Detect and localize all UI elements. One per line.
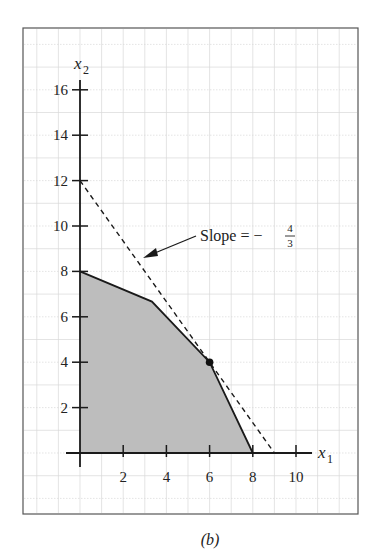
slope-annotation: Slope = − 4 3: [143, 222, 295, 258]
x-tick-label: 4: [163, 469, 171, 485]
slope-fraction-denominator: 3: [287, 237, 293, 249]
y-axis-label: x 2: [73, 54, 89, 77]
y-tick-label: 8: [61, 263, 69, 279]
x-tick-label: 2: [119, 469, 127, 485]
y-tick-label: 16: [53, 82, 69, 98]
slope-fraction-numerator: 4: [287, 222, 293, 234]
x-tick-label: 8: [249, 469, 257, 485]
lp-chart: Slope = − 4 3 x 1 x 2 246810246810121416…: [0, 0, 381, 554]
svg-text:1: 1: [327, 452, 333, 466]
x-tick-label: 6: [206, 469, 214, 485]
svg-text:x: x: [317, 443, 326, 462]
y-tick-label: 4: [61, 354, 69, 370]
y-tick-label: 2: [61, 400, 69, 416]
slope-label: Slope = −: [200, 227, 263, 245]
x-tick-label: 10: [289, 469, 304, 485]
svg-text:2: 2: [83, 63, 89, 77]
optimal-point: [206, 358, 214, 366]
y-tick-label: 10: [53, 218, 68, 234]
y-tick-label: 12: [53, 173, 68, 189]
x-axis-label: x 1: [317, 443, 333, 466]
figure-caption: (b): [201, 531, 220, 549]
y-tick-label: 6: [61, 309, 69, 325]
y-tick-label: 14: [53, 127, 69, 143]
arrow-head-icon: [143, 248, 158, 258]
svg-text:x: x: [73, 54, 82, 73]
